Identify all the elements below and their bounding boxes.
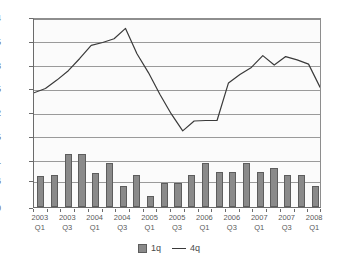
y-axis-tick-label: 2 (0, 109, 1, 118)
x-axis-tick-year: 2006 (224, 213, 241, 222)
x-axis-tick-mark (266, 209, 267, 212)
x-axis-tick-year: 2008 (306, 213, 323, 222)
x-axis-tick-label: 2008Q1 (297, 213, 331, 232)
x-axis-tick-mark (88, 209, 89, 212)
x-axis-tick-mark (280, 209, 281, 212)
chart-container: 00.5611.522.533.54 2003Q12003Q32004Q1200… (0, 0, 338, 265)
x-axis-tick-mark (156, 209, 157, 212)
x-axis-tick-mark (198, 209, 199, 212)
x-axis-tick-year: 2007 (278, 213, 295, 222)
x-axis-tick-mark (211, 209, 212, 212)
legend-label-1q: 1q (151, 243, 161, 253)
x-axis-tick-mark (129, 209, 130, 212)
chart-legend: 1q 4q (0, 243, 338, 253)
x-axis-tick-year: 2004 (114, 213, 131, 222)
x-axis: 2003Q12003Q32004Q12004Q32005Q12005Q32006… (33, 209, 321, 243)
legend-line-icon (172, 248, 186, 249)
plot-area (33, 18, 321, 208)
y-axis-tick-label: 3.5 (0, 38, 1, 47)
legend-swatch-icon (138, 244, 147, 253)
x-axis-tick-year: 2007 (251, 213, 268, 222)
x-axis-tick-year: 2005 (169, 213, 186, 222)
legend-label-4q: 4q (190, 243, 200, 253)
y-axis-tick-label: 4 (0, 14, 1, 23)
legend-entry-4q: 4q (172, 243, 200, 253)
x-axis-tick-mark (252, 209, 253, 212)
x-axis-tick-mark (33, 209, 34, 212)
x-axis-tick-year: 2004 (86, 213, 103, 222)
x-axis-tick-year: 2005 (141, 213, 158, 222)
x-axis-tick-mark (225, 209, 226, 212)
x-axis-tick-mark (102, 209, 103, 212)
x-axis-tick-mark (143, 209, 144, 212)
x-axis-tick-mark (170, 209, 171, 212)
x-axis-tick-mark (320, 209, 321, 212)
x-axis-tick-quarter: Q1 (297, 223, 331, 233)
x-axis-tick-mark (184, 209, 185, 212)
x-axis-tick-mark (115, 209, 116, 212)
x-axis-tick-mark (74, 209, 75, 212)
y-axis-tick-label: 1 (0, 157, 1, 166)
y-axis-tick-label: 2.5 (0, 85, 1, 94)
y-axis-tick-label: 0 (0, 204, 1, 213)
y-axis-tick-label: 3 (0, 62, 1, 71)
x-axis-tick-mark (60, 209, 61, 212)
x-axis-tick-year: 2003 (59, 213, 76, 222)
y-axis-tick-label: 0.56 (0, 177, 1, 186)
y-axis-tick-label: 1.5 (0, 133, 1, 142)
x-axis-tick-year: 2006 (196, 213, 213, 222)
x-axis-tick-mark (47, 209, 48, 212)
line-series-4q (34, 19, 320, 207)
x-axis-tick-mark (294, 209, 295, 212)
x-axis-tick-mark (307, 209, 308, 212)
x-axis-tick-year: 2003 (32, 213, 49, 222)
legend-entry-1q: 1q (138, 243, 161, 253)
x-axis-tick-mark (239, 209, 240, 212)
